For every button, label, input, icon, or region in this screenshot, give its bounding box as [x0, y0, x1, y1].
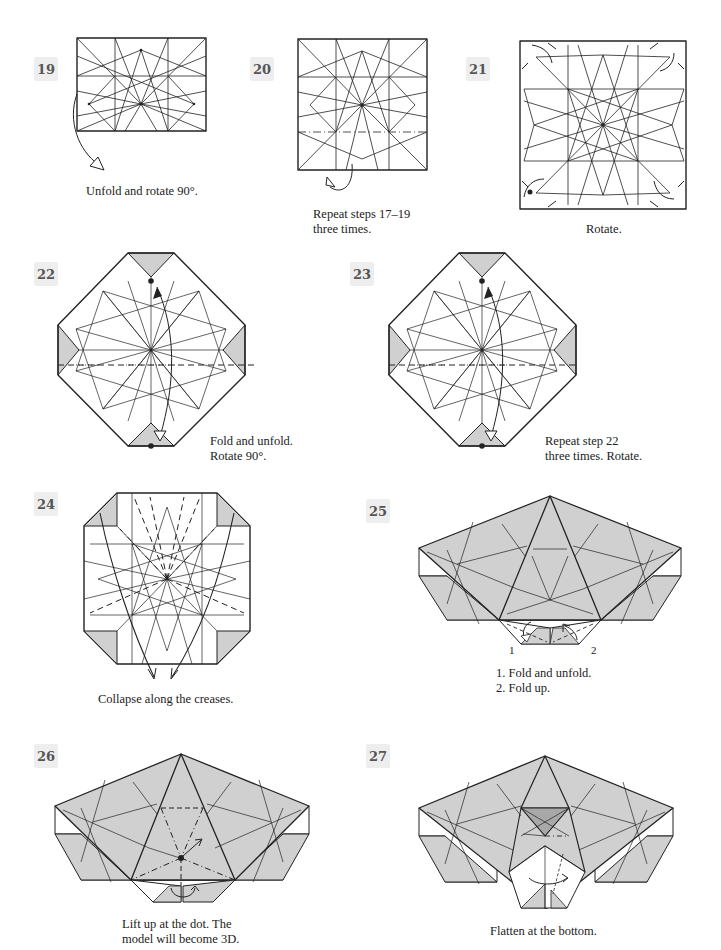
step-22-caption: Fold and unfold. Rotate 90°. [210, 434, 293, 464]
step-number-27: 27 [366, 744, 390, 768]
step-20-caption: Repeat steps 17–19 three times. [313, 207, 410, 237]
step-25-diagram: 1 2 [417, 494, 687, 654]
label-2: 2 [591, 644, 597, 656]
step-20-diagram [296, 37, 431, 207]
step-19-caption: Unfold and rotate 90°. [86, 184, 198, 199]
step-21-caption: Rotate. [586, 222, 622, 237]
step-26-caption: Lift up at the dot. The model will becom… [122, 917, 239, 947]
step-21-diagram [518, 39, 688, 211]
step-22-diagram [56, 251, 256, 451]
step-26-diagram [53, 752, 313, 902]
label-1: 1 [509, 644, 515, 656]
step-number-19: 19 [34, 57, 58, 81]
step-number-21: 21 [466, 57, 490, 81]
step-25-caption: 1. Fold and unfold. 2. Fold up. [496, 666, 591, 696]
step-number-24: 24 [34, 492, 58, 516]
step-number-23: 23 [350, 262, 374, 286]
step-27-caption: Flatten at the bottom. [490, 924, 597, 939]
step-number-20: 20 [250, 57, 274, 81]
step-19-diagram [75, 36, 210, 176]
step-27-diagram [417, 754, 687, 914]
step-24-caption: Collapse along the creases. [98, 692, 233, 707]
step-23-caption: Repeat step 22 three times. Rotate. [545, 434, 642, 464]
step-number-25: 25 [366, 499, 390, 523]
step-number-22: 22 [34, 262, 58, 286]
step-23-diagram [387, 251, 587, 451]
step-24-diagram [82, 491, 252, 676]
